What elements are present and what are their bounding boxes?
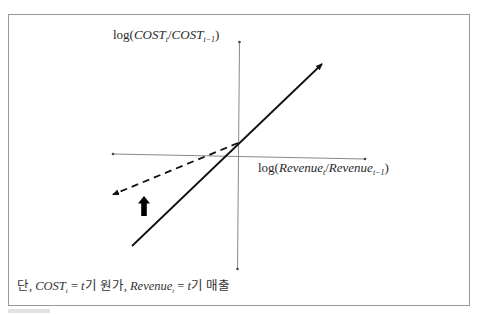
x-axis-label: log(Revenuet/Revenuet−1) — [258, 161, 389, 177]
y-axis — [238, 42, 240, 269]
dashed-cost-line — [113, 143, 238, 195]
footnote: 단, COSTt = t기 원가, Revenuet = t기 매출 — [17, 280, 230, 295]
cropped-caption — [8, 309, 78, 313]
arrow-up-icon — [138, 196, 150, 216]
y-axis-label: log(COSTt/COSTt−1) — [113, 28, 219, 44]
diagram-canvas — [0, 0, 481, 314]
